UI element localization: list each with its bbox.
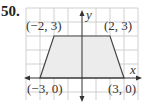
vertex-label-bottom-right: (3, 0) [108,81,136,96]
vertex-label-bottom-left: (−3, 0) [27,81,63,96]
x-axis-arrow-right-icon [136,76,142,81]
y-axis-label: y [84,7,92,22]
coordinate-diagram: y x (−2, 3) (2, 3) (3, 0) (−3, 0) [0,0,146,102]
y-axis-arrow-up-icon [80,10,85,16]
y-axis-arrow-down-icon [80,96,85,102]
x-axis-label: x [129,62,136,77]
vertex-label-top-left: (−2, 3) [26,18,62,33]
x-axis-arrow-left-icon [24,76,30,81]
vertex-label-top-right: (2, 3) [104,18,132,33]
